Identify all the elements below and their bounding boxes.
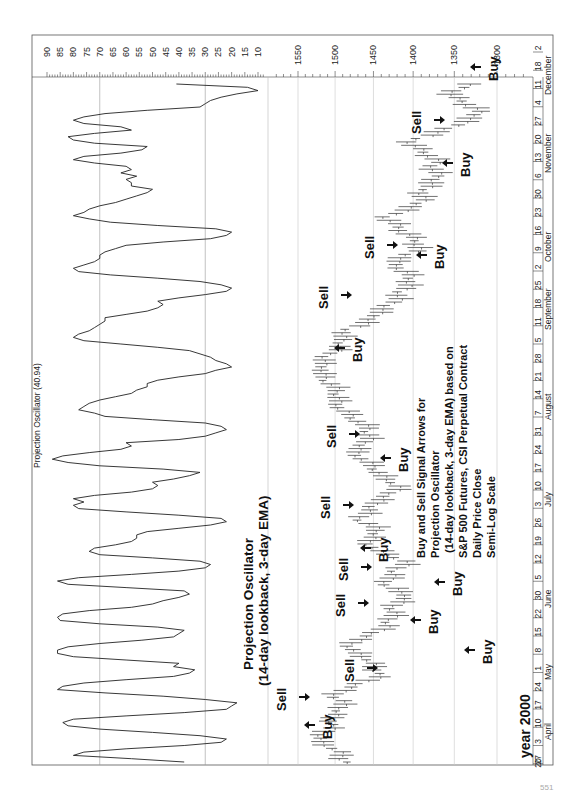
arrowhead-down-icon <box>367 563 372 571</box>
buy-signal: Buy <box>304 714 335 739</box>
osc-tick-label: 55 <box>134 47 144 57</box>
osc-tick-label: 45 <box>161 47 171 57</box>
date-tick-label: 21 <box>533 372 543 382</box>
signal-label: Sell <box>274 688 289 711</box>
price-tick-label: 1550 <box>293 45 303 65</box>
date-tick-label: 10 <box>533 718 543 728</box>
signal-label: Sell <box>316 286 331 309</box>
description-line-3: (14-day lookback, 3-day EMA) based on <box>443 346 455 553</box>
month-label: August <box>543 393 553 420</box>
sell-signal: Sell <box>336 558 372 581</box>
date-tick-label: 18 <box>533 299 543 309</box>
buy-signal: Buy <box>434 571 465 596</box>
date-tick-label: 5 <box>533 575 543 580</box>
arrowhead-down-icon <box>393 241 398 249</box>
signal-label: Sell <box>333 594 348 617</box>
date-tick-label: 14 <box>533 390 543 400</box>
date-tick-label: 17 <box>533 700 543 710</box>
signal-label: Buy <box>376 537 391 562</box>
date-tick-label: 5 <box>533 337 543 342</box>
arrowhead-up-icon <box>380 454 385 462</box>
oscillator-axis: 9085807570656055504540353025201510 <box>42 47 263 77</box>
buy-signal: Buy <box>380 447 411 472</box>
date-tick-label: 11 <box>533 317 543 326</box>
month-label: June <box>543 589 553 608</box>
signal-label: Sell <box>409 111 424 134</box>
arrowhead-up-icon <box>334 344 339 352</box>
date-tick-label: 24 <box>533 445 543 455</box>
date-tick-label: 26 <box>533 518 543 528</box>
osc-tick-label: 60 <box>121 47 131 57</box>
osc-tick-label: 10 <box>253 47 263 57</box>
sell-signal: Sell <box>362 236 398 259</box>
arrowhead-up-icon <box>470 63 475 71</box>
osc-tick-label: 40 <box>174 47 184 57</box>
price-tick-label: 1350 <box>449 45 459 65</box>
arrowhead-down-icon <box>373 664 378 672</box>
signal-label: Buy <box>396 447 411 472</box>
date-tick-label: 17 <box>533 463 543 473</box>
date-tick-label: 9 <box>533 246 543 251</box>
month-label: April <box>543 723 553 740</box>
buy-signal: Buy <box>410 609 441 634</box>
osc-tick-label: 65 <box>108 47 118 57</box>
date-tick-label: 23 <box>533 207 543 217</box>
arrowhead-up-icon <box>464 646 469 654</box>
sell-signal: Sell <box>274 688 310 711</box>
osc-tick-label: 20 <box>227 47 237 57</box>
osc-tick-label: 90 <box>42 47 52 57</box>
date-tick-label: 3 <box>533 502 543 507</box>
description-line-1: Buy and Sell Signal Arrows for <box>415 397 427 558</box>
month-label: November <box>543 134 553 173</box>
osc-tick-label: 85 <box>55 47 65 57</box>
rotated-chart-figure: 9085807570656055504540353025201510 15501… <box>0 0 584 793</box>
oscillator-title: Projection Oscillator (40.94) <box>32 363 42 468</box>
arrowhead-down-icon <box>347 291 352 299</box>
oscillator-annotation-line-1: Projection Oscillator <box>241 537 256 670</box>
date-tick-label: 22 <box>533 609 543 619</box>
arrowhead-up-icon <box>360 544 365 552</box>
oscillator-line <box>52 84 258 762</box>
page-number: 551 <box>540 783 554 792</box>
date-tick-label: 8 <box>533 648 543 653</box>
sell-signal: Sell <box>324 425 360 448</box>
signal-label: Buy <box>426 609 441 634</box>
description-line-5: Daily Price Close <box>471 469 483 558</box>
date-tick-label: 3 <box>533 739 543 744</box>
month-label: December <box>543 56 553 95</box>
date-tick-label: 18 <box>533 61 543 71</box>
description-line-2: Projection Oscillator <box>429 450 441 558</box>
month-label: September <box>543 288 553 330</box>
year-label: year 2000 <box>517 694 533 758</box>
buy-signal: Buy <box>442 152 473 177</box>
arrowhead-down-icon <box>349 501 354 509</box>
buy-signal: Buy <box>464 639 495 664</box>
date-tick-label: 15 <box>533 627 543 637</box>
arrowhead-up-icon <box>434 578 439 586</box>
osc-tick-label: 50 <box>148 47 158 57</box>
date-tick-label: 30 <box>533 189 543 199</box>
signal-label: Sell <box>318 496 333 519</box>
price-tick-label: 1500 <box>330 45 340 65</box>
sell-signal: Sell <box>333 594 369 617</box>
signal-label: Buy <box>350 337 365 362</box>
arrowhead-down-icon <box>440 116 445 124</box>
date-tick-label: 4 <box>533 100 543 105</box>
date-tick-label: 20 <box>533 134 543 144</box>
arrowhead-down-icon <box>305 693 310 701</box>
date-tick-label: 19 <box>533 536 543 546</box>
signal-label: Sell <box>342 659 357 682</box>
sell-signal: Sell <box>409 111 445 134</box>
osc-tick-label: 25 <box>213 47 223 57</box>
date-tick-label: 24 <box>533 682 543 692</box>
date-tick-label: 2 <box>533 45 543 50</box>
date-tick-label: 7 <box>533 410 543 415</box>
description-block: Buy and Sell Signal Arrows for Projectio… <box>415 345 497 558</box>
date-tick-label: 31 <box>533 426 543 436</box>
osc-tick-label: 35 <box>187 47 197 57</box>
signal-label: Buy <box>480 639 495 664</box>
arrowhead-up-icon <box>442 159 447 167</box>
date-tick-label: 1 <box>533 666 543 671</box>
date-tick-label: 27 <box>533 755 543 765</box>
arrowhead-up-icon <box>304 721 309 729</box>
